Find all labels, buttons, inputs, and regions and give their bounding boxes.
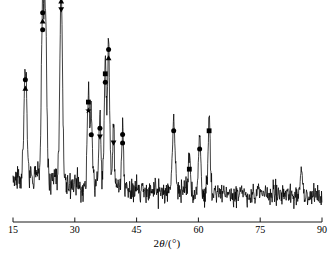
phase-marker-triangle-up [58, 0, 64, 3]
x-tick-label-15: 15 [8, 224, 18, 235]
x-tick-label-90: 90 [317, 224, 327, 235]
phase-marker-triangle-down [58, 7, 64, 12]
triangle-down-icon [111, 141, 117, 146]
phase-marker-square [103, 71, 108, 76]
phase-marker-circle [171, 128, 176, 133]
x-axis-label: 2θ/(°) [0, 237, 334, 249]
phase-marker-circle [97, 126, 102, 131]
x-tick-label-75: 75 [255, 224, 265, 235]
phase-marker-square [187, 167, 192, 172]
phase-marker-circle [197, 146, 202, 151]
square-icon [103, 71, 108, 76]
circle-icon [40, 10, 45, 15]
xrd-trace [13, 0, 322, 209]
circle-icon [40, 27, 45, 32]
square-icon [187, 167, 192, 172]
square-icon [207, 128, 212, 133]
x-tick-label-60: 60 [193, 224, 203, 235]
x-axis-label-suffix: /(°) [165, 237, 181, 249]
phase-marker-circle [103, 80, 108, 85]
circle-icon [97, 126, 102, 131]
phase-marker-circle [40, 27, 45, 32]
xrd-chart-figure: 153045607590 2θ/(°) [0, 0, 334, 260]
phase-marker-triangle-up [106, 55, 112, 60]
circle-icon [106, 47, 111, 52]
circle-icon [171, 128, 176, 133]
x-tick-label-30: 30 [70, 224, 80, 235]
circle-icon [89, 132, 94, 137]
phase-marker-square [207, 128, 212, 133]
triangle-up-icon [40, 18, 46, 23]
triangle-up-icon [58, 0, 64, 3]
phase-marker-circle [23, 77, 28, 82]
circle-icon [23, 77, 28, 82]
phase-marker-triangle-up [22, 85, 28, 90]
triangle-up-icon [22, 85, 28, 90]
phase-marker-circle [106, 47, 111, 52]
phase-marker-triangle-down [97, 135, 103, 140]
triangle-down-icon [97, 135, 103, 140]
circle-icon [120, 132, 125, 137]
phase-marker-circle [120, 132, 125, 137]
triangle-up-icon [106, 55, 112, 60]
phase-marker-triangle-up [40, 18, 46, 23]
circle-icon [120, 140, 125, 145]
circle-icon [103, 80, 108, 85]
square-icon [86, 100, 91, 105]
phase-marker-triangle-down [111, 141, 117, 146]
phase-marker-square [86, 100, 91, 105]
phase-marker-circle [89, 132, 94, 137]
phase-marker-circle [40, 10, 45, 15]
x-tick-label-45: 45 [132, 224, 142, 235]
phase-marker-circle [120, 140, 125, 145]
triangle-down-icon [58, 7, 64, 12]
xrd-plot-svg: 153045607590 [0, 0, 334, 260]
circle-icon [197, 146, 202, 151]
